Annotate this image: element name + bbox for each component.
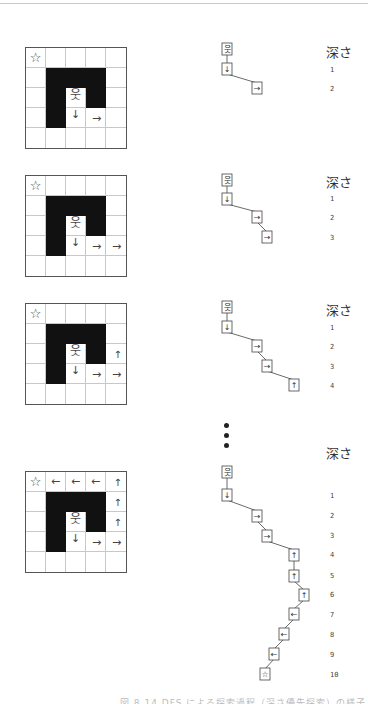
tree-node: →: [252, 82, 262, 94]
tree-node-label: ↑: [301, 591, 308, 600]
tree-node: ↑: [289, 549, 299, 561]
tree-node: ↓: [222, 489, 232, 501]
tree-node-label: →: [264, 532, 271, 541]
tree-node: ☆: [260, 668, 270, 680]
tree-root-node: 웃: [222, 43, 232, 55]
tree-node: ↓: [222, 321, 232, 333]
tree-node-label: 웃: [224, 176, 231, 185]
tree-node-label: 웃: [224, 468, 231, 477]
tree-node: →: [252, 211, 262, 223]
tree-node: ↑: [289, 379, 299, 391]
tree-node-label: ↑: [291, 381, 298, 390]
tree-edge: [257, 521, 267, 531]
tree-node: ↓: [222, 63, 232, 75]
tree-node-label: ↓: [224, 491, 231, 500]
tree-edge: [257, 222, 267, 232]
ellipsis-dot: [224, 423, 229, 428]
tree-root-node: 웃: [222, 174, 232, 186]
search-tree-diagrams: 웃↓→웃↓→→웃↓→→↑웃↓→→↑↑↑←←←☆: [0, 0, 368, 704]
tree-node-label: →: [264, 233, 271, 242]
tree-node-label: 웃: [224, 303, 231, 312]
tree-node: ↑: [299, 589, 309, 601]
tree-node: →: [262, 231, 272, 243]
tree-node: ←: [289, 608, 299, 620]
tree-node-label: →: [254, 213, 261, 222]
figure-caption: 図 8.14 DFS による探索過程（深さ優先探索）の様子: [120, 694, 368, 704]
tree-node-label: →: [254, 342, 261, 351]
tree-node-label: ↓: [224, 323, 231, 332]
tree-edge: [265, 659, 274, 669]
tree-node-label: ←: [281, 630, 288, 639]
ellipsis-dot: [224, 443, 229, 448]
ellipsis-dot: [224, 433, 229, 438]
tree-node-label: ←: [291, 610, 298, 619]
tree-node: →: [252, 510, 262, 522]
tree-root-node: 웃: [222, 301, 232, 313]
tree-node-label: ←: [271, 650, 278, 659]
tree-edge: [274, 639, 284, 649]
tree-node-label: ↓: [224, 195, 231, 204]
tree-node-label: ↑: [291, 551, 298, 560]
tree-node: →: [262, 360, 272, 372]
tree-node-label: →: [254, 512, 261, 521]
tree-node-label: →: [264, 362, 271, 371]
tree-node: →: [262, 530, 272, 542]
tree-node: →: [252, 340, 262, 352]
tree-node-label: →: [254, 84, 261, 93]
tree-node: ↑: [289, 570, 299, 582]
tree-node: ←: [279, 628, 289, 640]
tree-root-node: 웃: [222, 466, 232, 478]
tree-node-label: ☆: [261, 670, 268, 679]
tree-node-label: 웃: [224, 45, 231, 54]
tree-node-label: ↓: [224, 65, 231, 74]
tree-edge: [284, 619, 294, 629]
tree-edge: [227, 500, 257, 511]
tree-node-label: ↑: [291, 572, 298, 581]
tree-edge: [257, 351, 267, 361]
tree-node: ↓: [222, 193, 232, 205]
tree-node: ←: [269, 648, 279, 660]
